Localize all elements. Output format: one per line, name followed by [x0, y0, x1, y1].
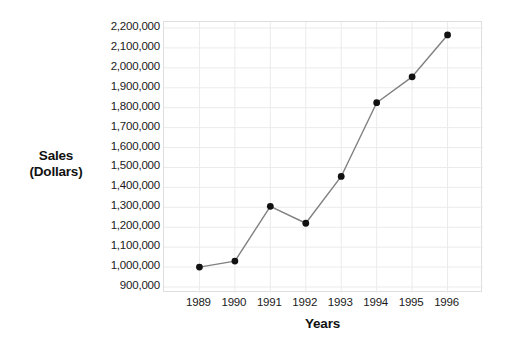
y-axis-tick-labels: 2,200,0002,100,0002,000,0001,900,0001,80… [86, 20, 160, 300]
y-axis-tick-label: 1,300,000 [86, 200, 160, 212]
y-axis-tick-label: 1,900,000 [86, 81, 160, 93]
data-point-marker [231, 258, 238, 265]
y-axis-tick-label: 1,200,000 [86, 220, 160, 232]
plot-canvas [164, 22, 483, 293]
data-point-marker [196, 264, 203, 271]
plot-area [163, 21, 482, 292]
y-axis-tick-label: 2,000,000 [86, 61, 160, 73]
sales-series-line [199, 35, 447, 267]
data-point-marker [302, 220, 309, 227]
y-axis-tick-label: 1,800,000 [86, 101, 160, 113]
data-point-marker [409, 73, 416, 80]
y-axis-tick-label: 2,100,000 [86, 41, 160, 53]
vertical-gridlines [199, 22, 447, 293]
x-axis-tick-label: 1996 [424, 296, 470, 309]
x-axis-tick-labels: 19891990199119921993199419951996 [163, 296, 488, 312]
y-axis-tick-label: 1,700,000 [86, 121, 160, 133]
data-point-marker [373, 99, 380, 106]
data-point-marker [444, 32, 451, 39]
y-axis-tick-label: 900,000 [86, 280, 160, 292]
x-axis-title: Years [163, 316, 482, 331]
data-point-marker [338, 173, 345, 180]
horizontal-gridlines [164, 28, 483, 287]
y-axis-tick-label: 1,500,000 [86, 160, 160, 172]
y-axis-tick-label: 1,000,000 [86, 260, 160, 272]
y-axis-tick-label: 1,600,000 [86, 141, 160, 153]
y-axis-tick-label: 1,400,000 [86, 180, 160, 192]
y-axis-tick-label: 1,100,000 [86, 240, 160, 252]
data-point-marker [267, 203, 274, 210]
y-axis-tick-label: 2,200,000 [86, 21, 160, 33]
sales-line-chart: Sales (Dollars) 2,200,0002,100,0002,000,… [0, 0, 505, 344]
